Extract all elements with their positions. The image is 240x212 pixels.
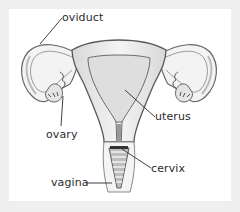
- uterus: [72, 40, 166, 146]
- label-oviduct: oviduct: [62, 12, 103, 24]
- label-ovary: ovary: [46, 129, 78, 141]
- reproductive-system-illustration: [0, 0, 240, 212]
- label-cervix: cervix: [151, 163, 185, 175]
- label-vagina: vagina: [51, 177, 89, 189]
- vagina: [103, 142, 135, 192]
- label-uterus: uterus: [155, 111, 191, 123]
- ovary-leader: [61, 96, 63, 126]
- diagram-frame: oviduct ovary uterus cervix vagina: [0, 0, 240, 212]
- oviduct-leader: [40, 18, 62, 44]
